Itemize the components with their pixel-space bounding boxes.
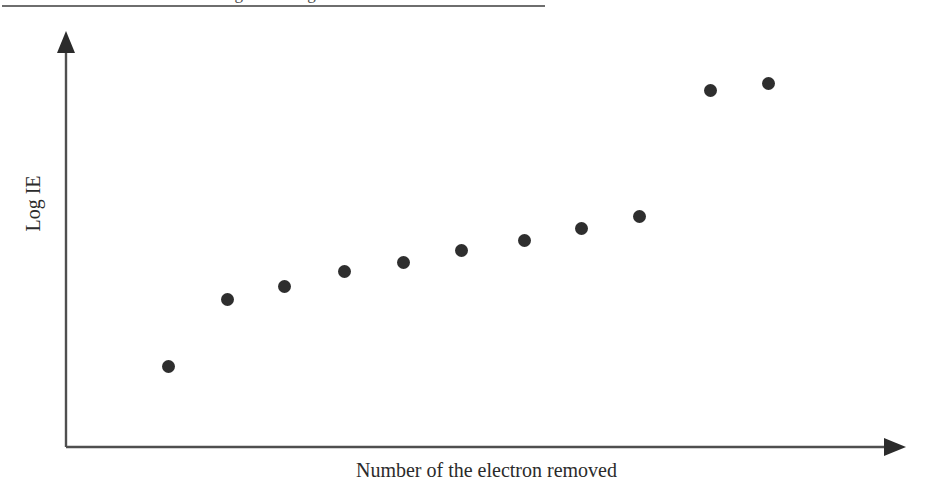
- y-axis-label: Log IE: [22, 162, 45, 246]
- x-axis-label: Number of the electron removed: [0, 459, 943, 482]
- data-point-6: [455, 244, 468, 257]
- data-point-4: [338, 265, 351, 278]
- data-point-3: [278, 280, 291, 293]
- y-axis-arrowhead-icon: [57, 31, 75, 53]
- data-point-8: [575, 222, 588, 235]
- data-point-2: [221, 293, 234, 306]
- plot-axes-svg: [0, 0, 943, 490]
- data-point-1: [162, 360, 175, 373]
- data-point-10: [704, 84, 717, 97]
- data-point-11: [762, 77, 775, 90]
- data-point-9: [633, 210, 646, 223]
- data-point-7: [518, 234, 531, 247]
- x-axis-arrowhead-icon: [884, 438, 906, 456]
- ionization-energy-figure: successive ionization energies of magnes…: [0, 0, 943, 490]
- data-point-5: [397, 256, 410, 269]
